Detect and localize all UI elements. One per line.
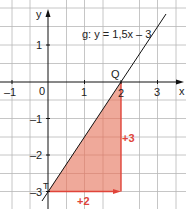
- line-equation-label: g: y = 1,5x – 3: [82, 28, 151, 40]
- y-tick-label: –1: [30, 113, 42, 125]
- x-tick-label: 1: [81, 86, 87, 98]
- run-label: +2: [77, 195, 90, 207]
- y-axis-arrow-icon: [46, 9, 51, 17]
- point-q-label: Q: [111, 68, 120, 80]
- x-tick-label: 0: [39, 85, 45, 97]
- point-t-label: T: [43, 181, 49, 191]
- y-axis-label: y: [36, 8, 42, 20]
- x-tick-label: –1: [4, 86, 16, 98]
- x-tick-label-2: 2: [118, 87, 124, 99]
- y-tick-label: –3: [30, 186, 42, 198]
- y-tick-label: 1: [36, 39, 42, 51]
- x-axis-arrow-icon: [176, 80, 184, 85]
- coordinate-graph: y x –1 0 1 3 1 –1 –2 –3 g: y = 1,5x – 3 …: [0, 0, 186, 209]
- y-tick-label: –2: [30, 149, 42, 161]
- x-axis-label: x: [179, 85, 185, 97]
- rise-label: +3: [122, 132, 135, 144]
- x-tick-label: 3: [154, 86, 160, 98]
